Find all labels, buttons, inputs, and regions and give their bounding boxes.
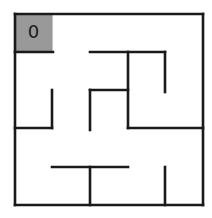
start-cell-label: 0 <box>28 23 39 41</box>
